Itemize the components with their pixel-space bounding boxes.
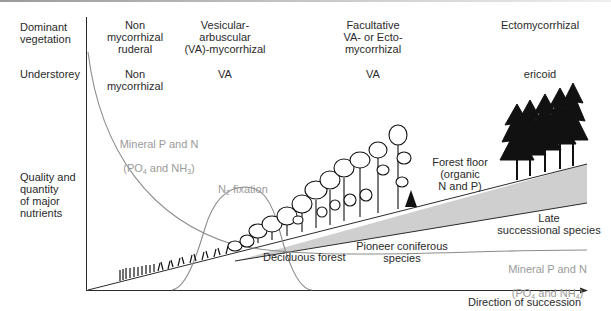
label-n2-fixation: N2 fixation xyxy=(218,171,268,195)
mineral-early-text: (PO xyxy=(123,162,143,174)
n2-text2: fixation xyxy=(230,183,268,195)
mineral-late-line1: Mineral P and N xyxy=(508,263,587,275)
label-pioneer-coniferous: Pioneer coniferous species xyxy=(347,240,457,264)
x-axis-label: Direction of succession xyxy=(468,296,581,308)
label-late-successional: Late successional species xyxy=(487,212,611,236)
label-mineral-late: Mineral P and N (PO4 and NH4) xyxy=(490,251,605,299)
mineral-early-text3: ) xyxy=(191,162,195,174)
small-conifer-icon xyxy=(405,190,417,207)
mineral-early-line1: Mineral P and N xyxy=(120,138,199,150)
label-mineral-early: Mineral P and N (PO4 and NH3) xyxy=(104,126,214,174)
label-deciduous-forest: Deciduous forest xyxy=(263,251,346,263)
ruderal-vegetation-icon xyxy=(120,246,228,281)
mineral-early-text2: and NH xyxy=(147,162,187,174)
conifer-trees-icon xyxy=(500,83,588,180)
n2-text: N xyxy=(218,183,226,195)
label-forest-floor: Forest floor (organic N and P) xyxy=(420,156,500,192)
